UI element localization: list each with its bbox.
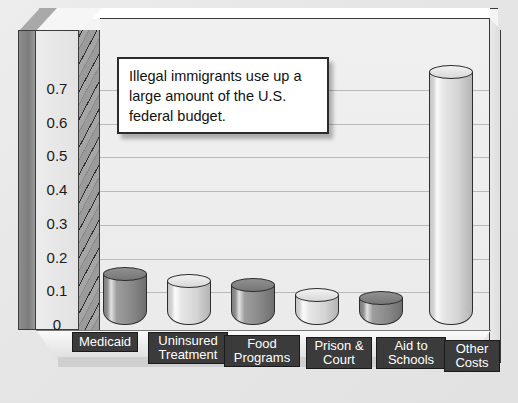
y-tick-label: 0.3 <box>35 215 79 232</box>
chart-screenshot: 0.70.60.50.40.30.20.10 MedicaidUninsured… <box>0 0 518 403</box>
bar-top-cap <box>295 288 339 302</box>
chart-3d-shell: 0.70.60.50.40.30.20.10 MedicaidUninsured… <box>0 0 518 403</box>
bar-body <box>103 274 147 325</box>
bar-5 <box>359 298 403 325</box>
bar-6 <box>429 72 473 325</box>
y-tick-label: 0.7 <box>35 80 79 97</box>
category-label-1: Medicaid <box>72 332 138 352</box>
y-tick-label: 0.1 <box>35 282 79 299</box>
bar-body <box>429 72 473 325</box>
callout-box: Illegal immigrants use up a large amount… <box>117 57 329 134</box>
y-tick-label: 0 <box>35 316 79 333</box>
bar-3 <box>231 285 275 326</box>
right-wall-outline-outer <box>500 30 501 363</box>
callout-text: Illegal immigrants use up a large amount… <box>129 68 301 124</box>
axis-depth-strip <box>78 30 100 330</box>
category-label-5: Aid to Schools <box>376 337 446 369</box>
bar-top-cap <box>429 65 473 79</box>
category-label-6: Other Costs <box>444 340 500 372</box>
y-tick-label: 0.6 <box>35 114 79 131</box>
bar-1 <box>103 274 147 325</box>
y-axis-side-wall <box>18 30 36 330</box>
bar-4 <box>295 295 339 325</box>
chart-floor-back-edge <box>36 330 491 331</box>
bar-top-cap <box>231 278 275 292</box>
category-label-2: Uninsured Treatment <box>148 332 228 364</box>
bar-top-cap <box>359 291 403 305</box>
y-tick-label: 0.4 <box>35 181 79 198</box>
right-wall-outline <box>489 18 490 358</box>
bar-2 <box>167 281 211 325</box>
category-label-3: Food Programs <box>224 335 300 367</box>
category-label-4: Prison & Court <box>306 337 372 369</box>
y-tick-label: 0.2 <box>35 249 79 266</box>
y-tick-label: 0.5 <box>35 147 79 164</box>
